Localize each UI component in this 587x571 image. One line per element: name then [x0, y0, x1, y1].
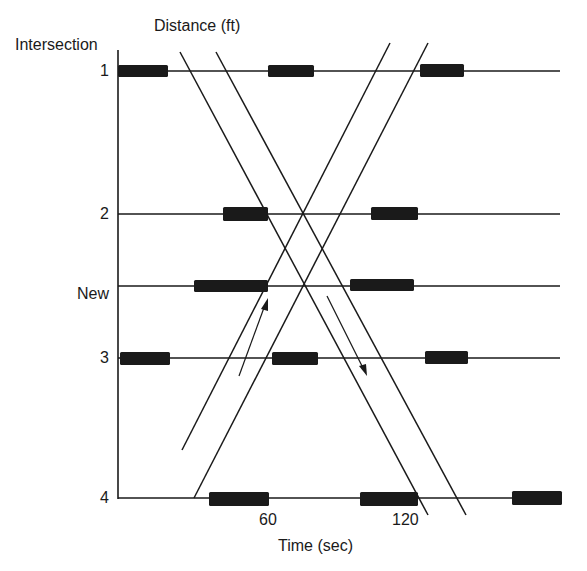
y-axis-title: Distance (ft): [154, 18, 240, 34]
red-phase-bars: [118, 64, 562, 506]
bar-1a: [118, 65, 168, 77]
x-tick-120: 120: [392, 512, 419, 528]
bar-3a: [120, 352, 170, 365]
row-label-new: New: [77, 286, 109, 302]
row-label-2: 2: [100, 206, 109, 222]
bar-1c: [420, 64, 464, 77]
up-band-line-2: [194, 43, 428, 498]
bar-4b: [360, 492, 418, 506]
bar-new-b: [350, 279, 414, 291]
row-label-3: 3: [100, 350, 109, 366]
bar-new-a: [194, 280, 268, 292]
bar-4a: [209, 492, 269, 506]
bar-2a: [223, 207, 268, 221]
y-group-label: Intersection: [15, 37, 98, 53]
bar-2b: [371, 207, 418, 220]
bar-3c: [425, 351, 468, 364]
row-label-4: 4: [100, 490, 109, 506]
row-label-1: 1: [100, 63, 109, 79]
bar-1b: [268, 65, 314, 77]
x-axis-title: Time (sec): [278, 538, 353, 554]
bar-4c: [512, 491, 562, 505]
up-band-line-1: [182, 43, 390, 450]
x-tick-60: 60: [259, 512, 277, 528]
bar-3b: [272, 352, 318, 365]
